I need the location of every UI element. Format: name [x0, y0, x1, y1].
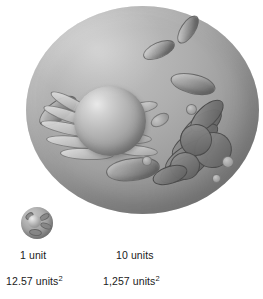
vesicle	[142, 156, 152, 166]
cell-scale-figure: 1 unit 10 units 12.57 units2 1,257 units…	[0, 0, 263, 299]
small-cell-body	[21, 207, 53, 239]
small-cell-organelle	[39, 221, 52, 231]
small-cell-diameter-label: 1 unit	[20, 249, 46, 261]
vesicle	[148, 110, 171, 130]
large-cell-diameter-label: 10 units	[116, 249, 154, 261]
small-cell-nucleus	[28, 215, 41, 228]
small-cell-organelle	[29, 228, 43, 236]
mitochondrion-top-left-of-pair	[140, 36, 178, 64]
large-cell-surface-area-exponent: 2	[155, 274, 159, 283]
small-cell-surface-area-exponent: 2	[58, 274, 62, 283]
large-cell-body	[26, 6, 259, 214]
vesicle	[186, 104, 197, 115]
vesicle	[212, 174, 221, 183]
mitochondrion-upper-right	[168, 69, 217, 100]
small-cell-surface-area-value: 12.57 units	[6, 275, 58, 287]
large-cell-surface-area-value: 1,257 units	[103, 275, 155, 287]
mitochondrion-top-right-of-pair	[173, 12, 203, 47]
small-cell-surface-area-label: 12.57 units2	[6, 275, 63, 287]
large-cell-surface-area-label: 1,257 units2	[103, 275, 160, 287]
vesicle	[222, 156, 234, 168]
nucleus	[74, 86, 146, 156]
